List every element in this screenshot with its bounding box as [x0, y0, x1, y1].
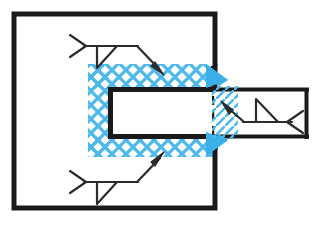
weld-symbol-bottom-left [70, 152, 164, 204]
weld-diagram-canvas [0, 0, 330, 230]
weld-hatch-bottom-band [88, 137, 218, 157]
fillet-weld-triangle-bottom-left [97, 182, 117, 204]
upper-diagonal-hatch [210, 84, 240, 114]
weld-diagram-container [0, 0, 330, 230]
inner-cavity-rectangle [108, 87, 213, 139]
lower-diagonal-hatch [210, 108, 240, 140]
